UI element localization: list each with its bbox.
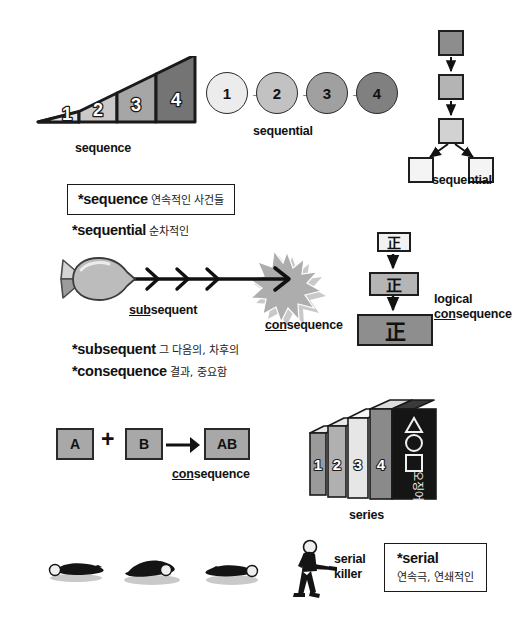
logical-box-1-glyph: 正 bbox=[387, 232, 401, 252]
flow-node-2 bbox=[438, 74, 464, 100]
ab-arrow-svg bbox=[166, 434, 200, 456]
box-a: A bbox=[56, 428, 94, 460]
label-consequence-explosion-prefix: con bbox=[265, 318, 287, 332]
box-b-label: B bbox=[139, 436, 149, 452]
label-subsequent-rest: sequent bbox=[151, 303, 198, 317]
fallen-body-3 bbox=[206, 565, 258, 585]
logical-label-rest: sequence bbox=[456, 307, 512, 321]
sequential-flowchart-diagram bbox=[406, 30, 512, 170]
label-consequence-ab: consequence bbox=[172, 467, 250, 481]
triangle-step-4 bbox=[156, 56, 195, 122]
triangle-number-4: 4 bbox=[171, 90, 181, 110]
label-consequence-explosion-rest: sequence bbox=[287, 318, 343, 332]
vocab-sequence-ko: 연속적인 사건들 bbox=[151, 194, 225, 207]
sequential-circles-diagram: 1 → 2 → 3 → 4 bbox=[206, 72, 392, 120]
vocab-subsequent-en: *subsequent bbox=[72, 341, 156, 357]
vocab-box-serial: *serial 연속극, 연쇄적인 bbox=[384, 543, 487, 592]
box-b: B bbox=[125, 428, 163, 460]
box-ab-label: AB bbox=[217, 436, 237, 452]
serial-killer-label: serial killer bbox=[334, 552, 365, 582]
logical-label-prefix: con bbox=[434, 307, 456, 321]
flow-node-1 bbox=[438, 30, 464, 56]
circle-node-4: 4 bbox=[356, 72, 398, 114]
circle-node-1-label: 1 bbox=[223, 85, 231, 102]
book-number-3: 3 bbox=[354, 456, 362, 473]
vocab-sequential-ko: 순차적인 bbox=[149, 225, 189, 238]
label-consequence-ab-prefix: con bbox=[172, 467, 194, 481]
logical-box-2: 正 bbox=[369, 272, 419, 296]
book-number-2: 2 bbox=[333, 456, 341, 473]
ab-arrow-head bbox=[190, 437, 200, 453]
triangle-step-1-body bbox=[38, 112, 79, 123]
vocab-line-subsequent: *subsequent그 다음의, 차후의 bbox=[72, 338, 239, 360]
sequential-flowchart-label: sequential bbox=[432, 173, 492, 187]
flow-node-3 bbox=[438, 118, 464, 144]
logical-label-line1: logical bbox=[434, 292, 512, 307]
series-books-diagram: 오징어 1 2 3 4 bbox=[300, 398, 450, 510]
worksheet-page: 1 2 3 4 sequence 1 → 2 → 3 → 4 sequentia… bbox=[0, 0, 521, 621]
logical-box-1: 正 bbox=[377, 232, 411, 252]
book-number-4: 4 bbox=[377, 456, 386, 473]
vocab-sequence-en: *sequence bbox=[78, 191, 148, 207]
vocab-serial-en: *serial bbox=[397, 550, 474, 566]
flow-node-4 bbox=[408, 157, 434, 183]
logical-consequence-label: logical consequence bbox=[434, 292, 512, 323]
label-consequence-explosion: consequence bbox=[265, 318, 343, 332]
circle-node-3-label: 3 bbox=[323, 85, 331, 102]
sequence-triangle-label: sequence bbox=[75, 141, 131, 155]
triangle-number-1: 1 bbox=[62, 104, 72, 124]
vocab-subsequent-ko: 그 다음의, 차후의 bbox=[159, 344, 240, 357]
label-subsequent: subsequent bbox=[129, 303, 197, 317]
vocab-sequential-en: *sequential bbox=[72, 222, 146, 238]
circle-node-2: 2 bbox=[256, 72, 298, 114]
label-subsequent-prefix: sub bbox=[129, 303, 151, 317]
circle-node-2-label: 2 bbox=[273, 85, 281, 102]
sequential-circles-label: sequential bbox=[253, 124, 313, 138]
logical-consequence-diagram: 正 正 正 bbox=[355, 232, 515, 350]
vocab-line-consequence: *consequence결과, 중요함 bbox=[72, 360, 239, 382]
sequence-triangle-diagram: 1 2 3 4 bbox=[36, 56, 202, 128]
serial-killer-label-line2: killer bbox=[334, 567, 365, 582]
flow-arrow-4 bbox=[455, 144, 473, 157]
vocab-consequence-ko: 결과, 중요함 bbox=[170, 366, 227, 379]
plus-sign: + bbox=[101, 426, 114, 453]
box-ab: AB bbox=[204, 428, 250, 460]
fallen-body-2 bbox=[124, 560, 180, 585]
logical-box-3-glyph: 正 bbox=[385, 315, 406, 345]
serial-killer-scene bbox=[40, 538, 340, 608]
standing-killer-figure bbox=[293, 541, 337, 599]
vocab-consequence-en: *consequence bbox=[72, 363, 167, 379]
fallen-body-1 bbox=[50, 563, 104, 582]
explosion-burst bbox=[249, 251, 321, 322]
serial-killer-label-line1: serial bbox=[334, 552, 365, 567]
label-consequence-ab-rest: sequence bbox=[194, 467, 250, 481]
series-books-label: series bbox=[349, 508, 384, 522]
vocab-serial-ko: 연속극, 연쇄적인 bbox=[397, 568, 474, 584]
triangle-number-2: 2 bbox=[93, 100, 103, 120]
triangle-number-3: 3 bbox=[131, 95, 141, 115]
logical-box-3: 正 bbox=[357, 314, 433, 346]
vocab-line-sequential: *sequential순차적인 bbox=[72, 221, 189, 239]
circle-node-1: 1 bbox=[206, 72, 248, 114]
cover-korean-text: 오징어 bbox=[411, 471, 424, 501]
ab-equation-diagram: A + B AB bbox=[56, 424, 256, 466]
flow-arrow-3 bbox=[430, 144, 448, 157]
circle-node-3: 3 bbox=[306, 72, 348, 114]
logical-label-line2: consequence bbox=[434, 307, 512, 322]
vocab-block-subsequent-consequence: *subsequent그 다음의, 차후의 *consequence결과, 중요… bbox=[72, 338, 239, 381]
logical-box-2-glyph: 正 bbox=[386, 272, 402, 296]
book-spine-4 bbox=[370, 409, 392, 499]
circle-node-4-label: 4 bbox=[373, 85, 381, 102]
vocab-box-sequence: *sequence연속적인 사건들 bbox=[67, 184, 235, 215]
book-number-1: 1 bbox=[314, 456, 322, 473]
box-a-label: A bbox=[70, 436, 80, 452]
